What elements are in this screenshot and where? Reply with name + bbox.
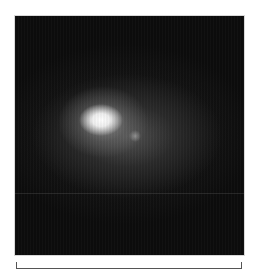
detector-streaks [15, 16, 244, 255]
scale-bar [16, 262, 242, 269]
astronomical-image [14, 15, 245, 256]
detector-seam-line [15, 193, 244, 194]
